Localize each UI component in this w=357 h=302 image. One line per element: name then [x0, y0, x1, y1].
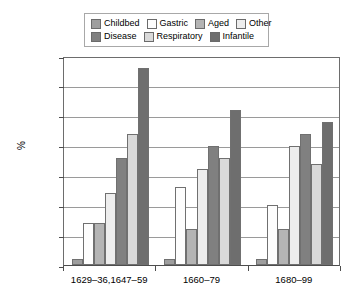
- legend-label: Disease: [104, 32, 137, 41]
- y-axis-tick: [59, 87, 64, 88]
- bar: [164, 259, 175, 265]
- legend-label: Aged: [208, 19, 229, 28]
- legend-label: Respiratory: [157, 32, 203, 41]
- legend-swatch-icon: [236, 19, 246, 29]
- legend-label: Childbed: [104, 19, 140, 28]
- legend-item-disease: Disease: [91, 32, 137, 42]
- x-axis-tick: [63, 266, 64, 271]
- legend-swatch-icon: [195, 19, 205, 29]
- bar: [138, 68, 149, 265]
- bar: [278, 229, 289, 265]
- legend-swatch-icon: [144, 32, 154, 42]
- bar: [72, 259, 83, 265]
- y-axis-title: %: [16, 141, 27, 150]
- legend-item-childbed: Childbed: [91, 19, 140, 29]
- legend-row: Childbed Gastric Aged Other: [91, 17, 263, 30]
- y-axis-tick: [59, 237, 64, 238]
- x-axis-tick-label: 1680–99: [248, 275, 340, 285]
- bar: [267, 205, 278, 265]
- legend-item-aged: Aged: [195, 19, 229, 29]
- bar: [289, 146, 300, 265]
- chart-legend: Childbed Gastric Aged Other Disease: [84, 13, 269, 47]
- bar: [83, 223, 94, 265]
- y-axis-tick: [59, 58, 64, 59]
- x-axis-tick-label: 1660–79: [155, 275, 247, 285]
- bar: [219, 158, 230, 265]
- legend-swatch-icon: [91, 19, 101, 29]
- bar: [322, 122, 333, 265]
- bar: [197, 169, 208, 265]
- legend-item-respiratory: Respiratory: [144, 32, 203, 42]
- x-axis-tick: [248, 266, 249, 271]
- bar-group: [72, 58, 149, 265]
- legend-item-other: Other: [236, 19, 272, 29]
- bar: [230, 110, 241, 265]
- legend-row: Disease Respiratory Infantile: [91, 30, 263, 43]
- bar: [116, 158, 127, 265]
- bar: [127, 134, 138, 265]
- bar-chart: Childbed Gastric Aged Other Disease: [0, 0, 357, 302]
- legend-label: Gastric: [160, 19, 189, 28]
- legend-swatch-icon: [147, 19, 157, 29]
- x-axis-tick-label: 1629–36,1647–59: [63, 275, 155, 285]
- y-axis-tick: [59, 177, 64, 178]
- x-axis-tick: [155, 266, 156, 271]
- y-axis-tick: [59, 147, 64, 148]
- bar: [311, 164, 322, 266]
- legend-swatch-icon: [91, 32, 101, 42]
- legend-item-gastric: Gastric: [147, 19, 189, 29]
- bar: [208, 146, 219, 265]
- bar: [256, 259, 267, 265]
- legend-item-infantile: Infantile: [210, 32, 255, 42]
- bar: [94, 223, 105, 265]
- x-axis-tick: [340, 266, 341, 271]
- legend-label: Infantile: [223, 32, 255, 41]
- plot-area: [63, 57, 340, 266]
- bar-group: [256, 58, 333, 265]
- y-axis-tick: [59, 207, 64, 208]
- bar: [175, 187, 186, 265]
- bar-group: [164, 58, 241, 265]
- bar: [186, 229, 197, 265]
- bar: [105, 193, 116, 265]
- legend-swatch-icon: [210, 32, 220, 42]
- legend-label: Other: [249, 19, 272, 28]
- bar: [300, 134, 311, 265]
- y-axis-tick: [59, 117, 64, 118]
